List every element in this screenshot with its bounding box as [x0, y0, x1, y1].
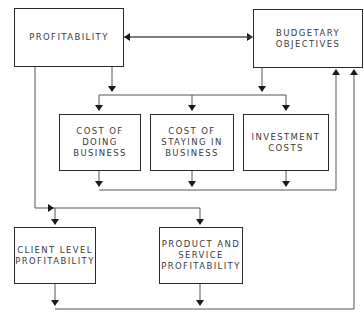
node-investment-costs: INVESTMENT COSTS	[243, 114, 329, 171]
node-product-service-profitability: PRODUCT AND SERVICE PROFITABILITY	[159, 227, 243, 284]
node-cost-of-staying-in-business: COST OF STAYING IN BUSINESS	[150, 114, 234, 171]
node-budgetary-objectives: BUDGETARY OBJECTIVES	[253, 9, 363, 68]
node-client-level-profitability: CLIENT LEVEL PROFITABILITY	[14, 227, 96, 284]
node-profitability: PROFITABILITY	[14, 8, 124, 67]
node-cost-of-doing-business: COST OF DOING BUSINESS	[59, 114, 141, 171]
